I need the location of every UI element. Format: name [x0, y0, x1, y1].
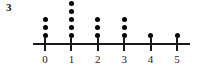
- data-dot: [95, 33, 100, 38]
- x-axis-tick-label: 2: [88, 53, 108, 66]
- data-dot: [69, 17, 74, 22]
- data-dot: [95, 25, 100, 30]
- data-dot: [69, 33, 74, 38]
- data-dot: [43, 33, 48, 38]
- x-axis-line: [33, 43, 190, 45]
- data-dot: [69, 1, 74, 6]
- data-dot: [148, 33, 153, 38]
- data-dot: [69, 9, 74, 14]
- x-axis-tick: [97, 38, 99, 51]
- data-dot: [175, 33, 180, 38]
- x-axis-tick-label: 1: [61, 53, 81, 66]
- data-dot: [122, 33, 127, 38]
- x-axis-tick: [44, 38, 46, 51]
- data-dot: [69, 25, 74, 30]
- dot-plot-chart: 012345: [0, 0, 199, 69]
- data-dot: [122, 25, 127, 30]
- dot-plot-figure: 3 012345: [0, 0, 199, 69]
- x-axis-tick-label: 0: [35, 53, 55, 66]
- data-dot: [122, 17, 127, 22]
- data-dot: [43, 17, 48, 22]
- x-axis-tick-label: 4: [141, 53, 161, 66]
- data-dot: [95, 17, 100, 22]
- data-dot: [43, 25, 48, 30]
- x-axis-tick: [70, 38, 72, 51]
- x-axis-tick: [176, 38, 178, 51]
- x-axis-tick-label: 5: [167, 53, 187, 66]
- x-axis-tick-label: 3: [114, 53, 134, 66]
- x-axis-tick: [150, 38, 152, 51]
- x-axis-tick: [123, 38, 125, 51]
